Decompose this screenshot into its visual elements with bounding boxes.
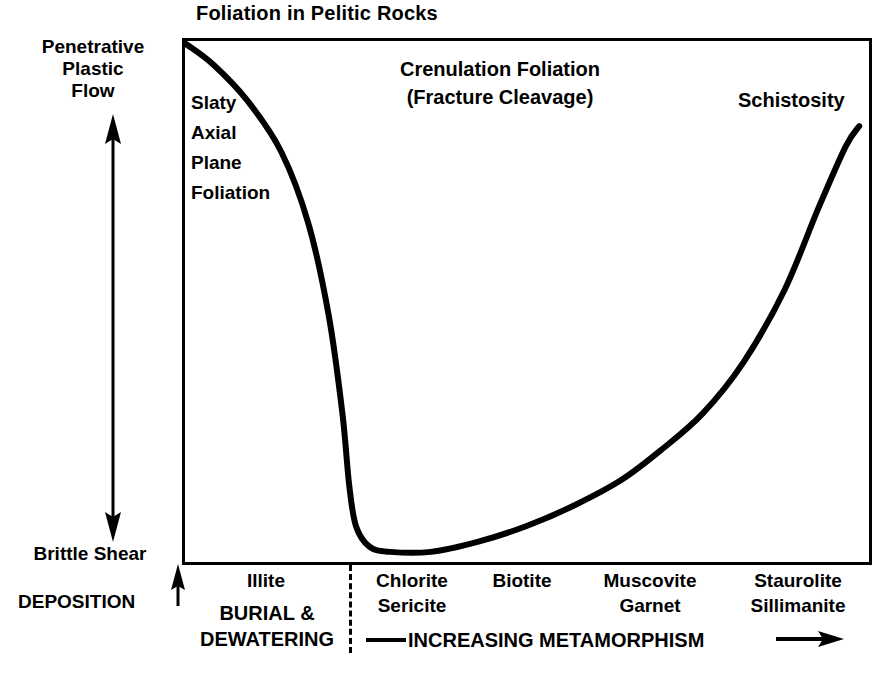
page-title: Foliation in Pelitic Rocks <box>196 1 616 25</box>
slaty-line-2: Axial <box>191 118 321 148</box>
x-axis-zone-illite: Illite <box>186 568 346 593</box>
crenulation-line-1: Crenulation Foliation <box>345 55 655 83</box>
zone-chlorite-line-1: Chlorite <box>352 568 472 593</box>
burial-line-1: BURIAL & <box>186 600 348 626</box>
burial-line-2: DEWATERING <box>186 626 348 652</box>
metamorphism-leader-dash <box>366 638 406 642</box>
y-axis-top-line-1: Penetrative <box>18 36 168 58</box>
crenulation-line-2: (Fracture Cleavage) <box>345 83 655 111</box>
zone-chlorite-line-2: Sericite <box>352 593 472 618</box>
y-axis-top-line-3: Flow <box>18 80 168 102</box>
zone-biotite-line-1: Biotite <box>462 568 582 593</box>
metamorphism-right-arrow-icon <box>776 626 846 652</box>
zone-staurolite-line-2: Sillimanite <box>718 593 878 618</box>
deposition-label: DEPOSITION <box>18 591 170 613</box>
zone-muscovite-line-2: Garnet <box>580 593 720 618</box>
slaty-line-3: Plane <box>191 148 321 178</box>
zone-illite-line-1: Illite <box>186 568 346 593</box>
x-axis-zone-muscovite-garnet: Muscovite Garnet <box>580 568 720 618</box>
diagram-canvas: Foliation in Pelitic Rocks Penetrative P… <box>0 0 890 685</box>
slaty-line-4: Foliation <box>191 178 321 208</box>
x-axis-zone-biotite: Biotite <box>462 568 582 593</box>
x-axis-burial-dewatering-label: BURIAL & DEWATERING <box>186 600 348 652</box>
slaty-line-1: Slaty <box>191 88 321 118</box>
annotation-schistosity: Schistosity <box>738 88 878 112</box>
y-axis-top-line-2: Plastic <box>18 58 168 80</box>
zone-staurolite-line-1: Staurolite <box>718 568 878 593</box>
x-axis-increasing-metamorphism-label: INCREASING METAMORPHISM <box>408 627 704 653</box>
annotation-slaty-axial-plane-foliation: Slaty Axial Plane Foliation <box>191 88 321 208</box>
zone-muscovite-line-1: Muscovite <box>580 568 720 593</box>
y-axis-bottom-label: Brittle Shear <box>6 543 174 565</box>
x-axis-zone-staurolite-sillimanite: Staurolite Sillimanite <box>718 568 878 618</box>
y-axis-top-label: Penetrative Plastic Flow <box>18 36 168 102</box>
annotation-crenulation-foliation: Crenulation Foliation (Fracture Cleavage… <box>345 55 655 111</box>
y-axis-arrow-icon <box>78 112 150 544</box>
x-axis-zone-chlorite-sericite: Chlorite Sericite <box>352 568 472 618</box>
